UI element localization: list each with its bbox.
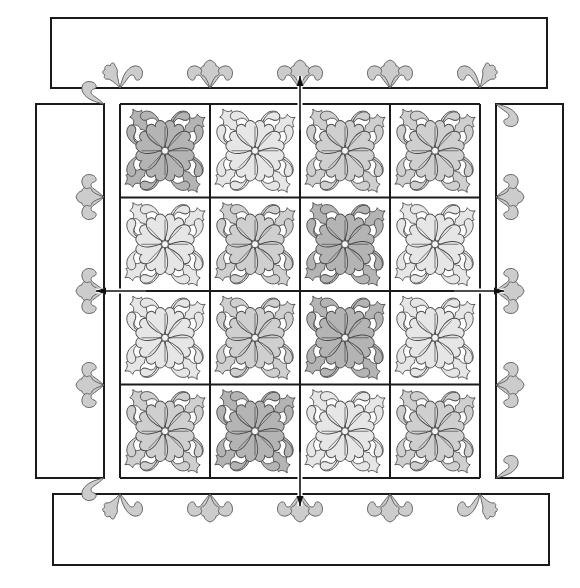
assembly-arrow-down (297, 452, 304, 506)
border-strip-right (496, 104, 563, 478)
assembly-arrow-left (96, 288, 146, 295)
quilt-assembly-diagram: Quilt assembly diagram (0, 0, 580, 588)
border-strip-left (36, 81, 104, 500)
assembly-arrow-right (454, 288, 504, 295)
center-block-grid (120, 104, 480, 478)
diagram-canvas (0, 0, 580, 588)
assembly-arrow-up (297, 76, 304, 130)
